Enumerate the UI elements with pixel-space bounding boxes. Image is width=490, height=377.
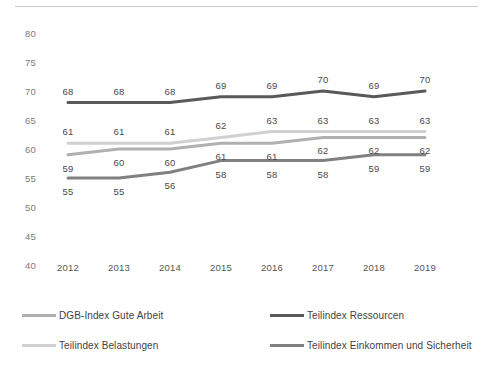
data-label-s1-2014: 61 <box>157 126 183 137</box>
plot-area: 404550556065707580 686868696970697061616… <box>0 0 490 290</box>
data-label-s0-2012: 68 <box>55 85 81 96</box>
data-label-s1-2017: 63 <box>310 114 336 125</box>
data-label-s3-2017: 58 <box>310 168 336 179</box>
data-label-s3-2019: 59 <box>412 162 438 173</box>
data-label-s3-2012: 55 <box>55 186 81 197</box>
x-axis-tick-2013: 2013 <box>99 262 139 273</box>
data-label-s3-2015: 58 <box>208 168 234 179</box>
legend-line-swatch-icon <box>22 344 56 347</box>
data-label-s0-2018: 69 <box>361 79 387 90</box>
x-axis-tick-2017: 2017 <box>303 262 343 273</box>
data-label-s3-2018: 59 <box>361 162 387 173</box>
data-label-s1-2019: 63 <box>412 114 438 125</box>
legend-item-label: Teilindex Einkommen und Sicherheit <box>307 340 472 351</box>
legend-item-label: Teilindex Belastungen <box>59 340 158 351</box>
x-axis-tick-2015: 2015 <box>201 262 241 273</box>
data-label-s2-2018: 62 <box>361 145 387 156</box>
data-label-s0-2013: 68 <box>106 85 132 96</box>
legend-item-2[interactable]: Teilindex Ressourcen <box>270 300 472 330</box>
data-label-s0-2016: 69 <box>259 79 285 90</box>
data-label-s0-2017: 70 <box>310 74 336 85</box>
data-label-s1-2016: 63 <box>259 114 285 125</box>
data-label-s3-2016: 58 <box>259 168 285 179</box>
chart-legend: DGB-Index Gute ArbeitTeilindex Belastung… <box>0 300 490 377</box>
legend-line-swatch-icon <box>270 344 304 347</box>
x-axis-tick-2018: 2018 <box>354 262 394 273</box>
data-label-s1-2018: 63 <box>361 114 387 125</box>
line-chart: 404550556065707580 686868696970697061616… <box>0 0 490 377</box>
legend-item-3[interactable]: Teilindex Einkommen und Sicherheit <box>270 330 472 360</box>
data-label-s0-2019: 70 <box>412 74 438 85</box>
legend-item-label: Teilindex Ressourcen <box>307 310 404 321</box>
data-label-s3-2013: 55 <box>106 186 132 197</box>
legend-column-right: Teilindex RessourcenTeilindex Einkommen … <box>270 300 472 360</box>
legend-item-label: DGB-Index Gute Arbeit <box>59 310 163 321</box>
data-label-s2-2016: 61 <box>259 151 285 162</box>
x-axis-tick-2019: 2019 <box>405 262 445 273</box>
data-label-s2-2014: 60 <box>157 157 183 168</box>
legend-line-swatch-icon <box>22 314 56 317</box>
data-label-s0-2015: 69 <box>208 79 234 90</box>
data-label-s2-2019: 62 <box>412 145 438 156</box>
legend-column-left: DGB-Index Gute ArbeitTeilindex Belastung… <box>22 300 163 360</box>
x-axis-tick-2014: 2014 <box>150 262 190 273</box>
data-label-s2-2015: 61 <box>208 151 234 162</box>
legend-item-0[interactable]: DGB-Index Gute Arbeit <box>22 300 163 330</box>
legend-line-swatch-icon <box>270 314 304 317</box>
data-label-s1-2013: 61 <box>106 126 132 137</box>
data-label-s3-2014: 56 <box>157 180 183 191</box>
legend-item-1[interactable]: Teilindex Belastungen <box>22 330 163 360</box>
x-axis-tick-2016: 2016 <box>252 262 292 273</box>
data-label-s2-2013: 60 <box>106 157 132 168</box>
data-label-s0-2014: 68 <box>157 85 183 96</box>
data-label-s2-2012: 59 <box>55 162 81 173</box>
data-label-s1-2012: 61 <box>55 126 81 137</box>
x-axis-tick-2012: 2012 <box>48 262 88 273</box>
data-label-s1-2015: 62 <box>208 120 234 131</box>
data-label-s2-2017: 62 <box>310 145 336 156</box>
